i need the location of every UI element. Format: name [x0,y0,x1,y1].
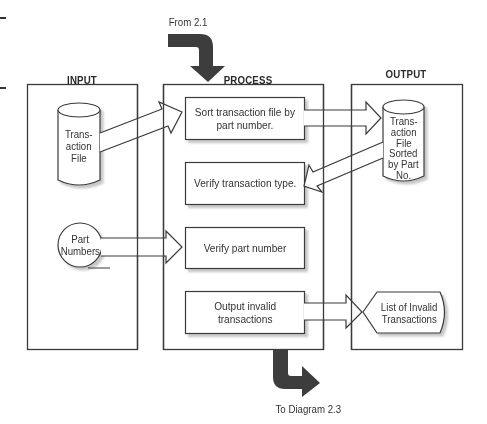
outgoing-connector-arrow [273,349,320,397]
process-step-sort: Sort transaction file bypart number. [186,98,304,139]
output-column-title: OUTPUT [380,68,433,80]
incoming-connector-arrow [168,34,225,82]
part-numbers-label: Part Numbers [58,233,102,257]
diagram-canvas [0,0,487,424]
outgoing-connector-label: To Diagram 2.3 [258,403,358,415]
flow-arrow-sorted-file-to-verify-type [304,142,383,192]
flow-arrow-output-to-invalid-list [304,295,362,328]
flow-arrow-file-to-sort [100,102,182,152]
incoming-connector-label: From 2.1 [166,16,216,28]
process-step-output-invalid: Output invalidtransactions [186,292,304,333]
transaction-file-label: Trans- action File [58,128,100,164]
input-column-title: INPUT [56,74,109,86]
flow-arrow-sort-to-sorted-file [304,102,381,134]
sorted-file-label: Trans- action File Sorted by Part No. [383,116,424,181]
invalid-list-label: List of Invalid Transactions [370,301,448,325]
flow-arrow-part-numbers-to-verify [101,231,182,263]
process-step-verify-part: Verify part number [186,228,304,268]
process-column-title: PROCESS [222,74,275,86]
process-step-verify-type: Verify transaction type. [186,163,304,204]
